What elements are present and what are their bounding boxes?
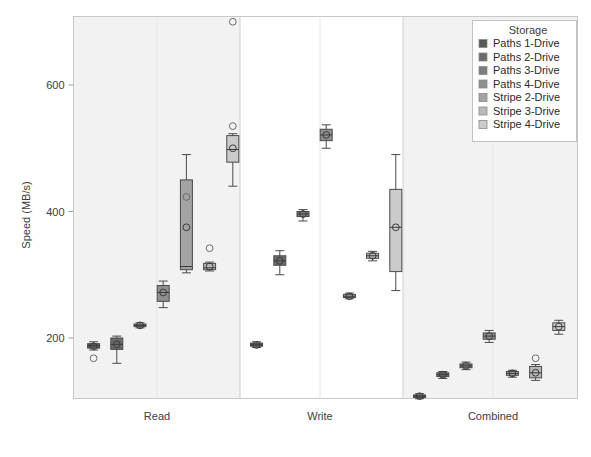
boxplot-chart: 200400600 ReadWriteCombined Speed (MB/s)… bbox=[0, 0, 591, 457]
box-rect bbox=[227, 136, 239, 163]
legend-swatch bbox=[479, 121, 487, 129]
x-category-label-read: Read bbox=[144, 410, 170, 422]
y-tick-label: 600 bbox=[46, 79, 64, 91]
legend-item-label: Stripe 3-Drive bbox=[493, 105, 560, 117]
legend-swatch bbox=[479, 67, 487, 75]
chart-canvas: 200400600 ReadWriteCombined Speed (MB/s)… bbox=[0, 0, 591, 457]
legend-swatch bbox=[479, 80, 487, 88]
box-read-series-2 bbox=[134, 322, 146, 329]
y-axis-title: Speed (MB/s) bbox=[20, 181, 32, 248]
legend-swatch bbox=[479, 40, 487, 48]
box-rect bbox=[204, 263, 216, 269]
box-combined-series-0 bbox=[414, 393, 426, 400]
x-category-label-write: Write bbox=[307, 410, 332, 422]
y-tick-label: 400 bbox=[46, 206, 64, 218]
legend-swatch bbox=[479, 53, 487, 61]
box-rect bbox=[157, 286, 169, 302]
box-write-series-0 bbox=[251, 342, 263, 349]
x-category-label-combined: Combined bbox=[468, 410, 518, 422]
legend-item-label: Stripe 2-Drive bbox=[493, 91, 560, 103]
legend-item-label: Stripe 4-Drive bbox=[493, 118, 560, 130]
legend-item-label: Paths 2-Drive bbox=[493, 51, 560, 63]
box-write-series-4 bbox=[343, 293, 355, 300]
legend-item-label: Paths 3-Drive bbox=[493, 64, 560, 76]
y-tick-label: 200 bbox=[46, 332, 64, 344]
legend-item-label: Paths 1-Drive bbox=[493, 37, 560, 49]
chart-legend: StoragePaths 1-DrivePaths 2-DrivePaths 3… bbox=[473, 21, 577, 142]
legend-item-label: Paths 4-Drive bbox=[493, 78, 560, 90]
legend-swatch bbox=[479, 94, 487, 102]
legend-swatch bbox=[479, 107, 487, 115]
legend-title: Storage bbox=[509, 24, 548, 36]
